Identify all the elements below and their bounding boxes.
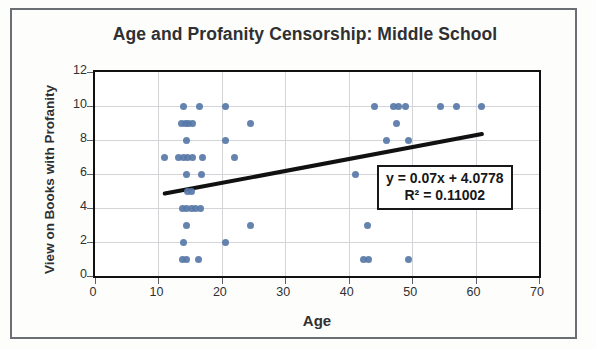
- data-point: [383, 137, 390, 144]
- data-point: [393, 120, 400, 127]
- x-tick-label: 40: [327, 285, 367, 299]
- data-point: [188, 188, 195, 195]
- data-point: [478, 103, 485, 110]
- data-point: [231, 154, 238, 161]
- data-point: [395, 103, 402, 110]
- chart-title: Age and Profanity Censorship: Middle Sch…: [60, 24, 550, 45]
- data-point: [180, 239, 187, 246]
- data-point: [247, 120, 254, 127]
- x-tick-mark: [412, 278, 413, 284]
- y-tick-label: 10: [61, 97, 87, 111]
- regression-equation-box: y = 0.07x + 4.0778 R² = 0.11002: [377, 165, 513, 210]
- data-point: [161, 154, 168, 161]
- y-tick-label: 12: [61, 63, 87, 77]
- data-point: [365, 256, 372, 263]
- data-point: [402, 103, 409, 110]
- scanned-page: Age and Profanity Censorship: Middle Sch…: [0, 0, 596, 349]
- y-tick-mark: [87, 242, 93, 243]
- data-point: [197, 205, 204, 212]
- data-point: [453, 103, 460, 110]
- y-tick-mark: [87, 140, 93, 141]
- data-point: [222, 137, 229, 144]
- data-point: [189, 120, 196, 127]
- y-tick-label: 2: [61, 233, 87, 247]
- x-tick-label: 0: [73, 285, 113, 299]
- scatter-chart-figure: Age and Profanity Censorship: Middle Sch…: [0, 0, 596, 349]
- x-tick-label: 60: [454, 285, 494, 299]
- x-axis-title: Age: [93, 312, 541, 329]
- data-point: [247, 222, 254, 229]
- data-point: [199, 154, 206, 161]
- regression-equation-line: y = 0.07x + 4.0778: [386, 170, 504, 187]
- x-tick-label: 50: [390, 285, 430, 299]
- y-tick-mark: [87, 72, 93, 73]
- x-axis-tick-labels: 010203040506070: [93, 285, 541, 305]
- data-point: [195, 256, 202, 263]
- data-point: [198, 171, 205, 178]
- x-tick-mark: [476, 278, 477, 284]
- y-tick-mark: [87, 276, 93, 277]
- x-tick-label: 30: [263, 285, 303, 299]
- y-tick-mark: [87, 174, 93, 175]
- y-tick-label: 8: [61, 131, 87, 145]
- x-tick-label: 20: [200, 285, 240, 299]
- y-tick-label: 0: [61, 267, 87, 281]
- data-point: [180, 103, 187, 110]
- data-point: [222, 239, 229, 246]
- y-tick-label: 6: [61, 165, 87, 179]
- x-tick-label: 10: [136, 285, 176, 299]
- data-point: [437, 103, 444, 110]
- x-tick-mark: [158, 278, 159, 284]
- data-point: [371, 103, 378, 110]
- r-squared-line: R² = 0.11002: [386, 187, 504, 204]
- y-tick-label: 4: [61, 199, 87, 213]
- data-point: [183, 256, 190, 263]
- x-tick-mark: [285, 278, 286, 284]
- x-tick-mark: [349, 278, 350, 284]
- data-point: [364, 222, 371, 229]
- y-axis-tick-labels: 121086420: [57, 70, 87, 278]
- y-tick-mark: [87, 106, 93, 107]
- x-tick-mark: [95, 278, 96, 284]
- data-point: [352, 171, 359, 178]
- y-axis-title: View on Books with Profanity: [42, 65, 57, 295]
- data-point: [189, 154, 196, 161]
- x-tick-label: 70: [517, 285, 557, 299]
- data-point: [222, 103, 229, 110]
- y-tick-mark: [87, 208, 93, 209]
- data-point: [196, 103, 203, 110]
- x-tick-mark: [539, 278, 540, 284]
- x-tick-mark: [222, 278, 223, 284]
